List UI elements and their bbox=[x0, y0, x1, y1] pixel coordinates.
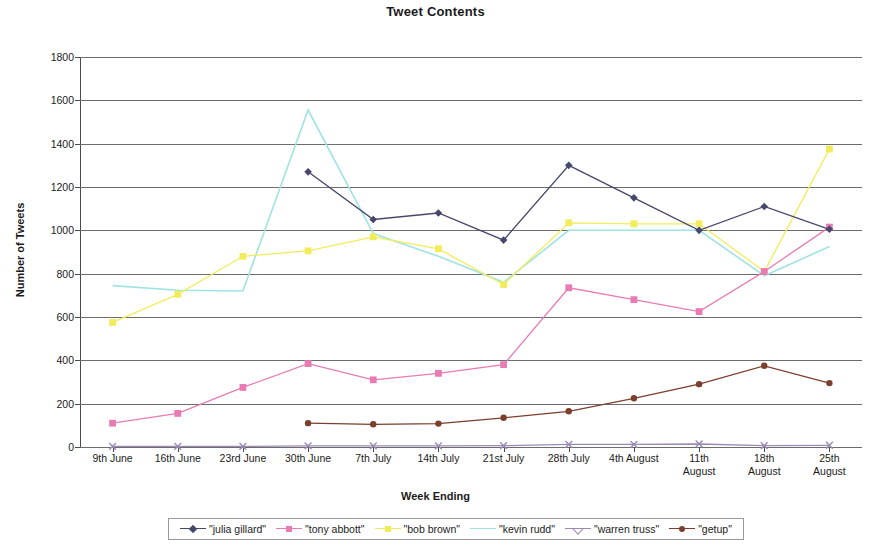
y-tick-label: 1800 bbox=[28, 51, 74, 63]
legend-swatch-icon bbox=[669, 524, 695, 534]
data-point bbox=[240, 253, 247, 260]
series-lines bbox=[80, 57, 862, 447]
x-tick-label: 14th July bbox=[417, 452, 459, 465]
legend-swatch-icon bbox=[470, 524, 496, 534]
x-tick-label: 4th August bbox=[609, 452, 659, 465]
x-tick-label: 11th August bbox=[683, 452, 716, 478]
data-point bbox=[500, 415, 506, 421]
data-point bbox=[760, 203, 768, 211]
series-line bbox=[113, 444, 830, 446]
data-point bbox=[370, 421, 376, 427]
y-tick-label: 600 bbox=[28, 311, 74, 323]
series-line bbox=[113, 110, 830, 291]
y-tick-label: 1000 bbox=[28, 224, 74, 236]
legend-swatch-icon bbox=[565, 524, 591, 534]
data-point bbox=[500, 361, 507, 368]
series-4 bbox=[109, 441, 833, 450]
data-point bbox=[631, 395, 637, 401]
data-point bbox=[630, 194, 638, 202]
data-point bbox=[435, 245, 442, 252]
data-point bbox=[435, 370, 442, 377]
data-point bbox=[500, 281, 507, 288]
chart-canvas: Tweet Contents Number of Tweets 02004006… bbox=[0, 0, 871, 546]
x-axis-title: Week Ending bbox=[0, 490, 871, 502]
data-point bbox=[761, 363, 767, 369]
data-point bbox=[435, 420, 441, 426]
legend-item-4[interactable]: "warren truss" bbox=[565, 523, 659, 535]
y-tick-label: 1200 bbox=[28, 181, 74, 193]
data-point bbox=[370, 233, 377, 240]
x-tick-label: 21st July bbox=[483, 452, 524, 465]
series-2 bbox=[109, 146, 833, 326]
chart-title: Tweet Contents bbox=[0, 4, 871, 19]
data-point bbox=[305, 360, 312, 367]
series-line bbox=[113, 227, 830, 423]
y-tick-mark bbox=[75, 447, 80, 448]
legend-swatch-icon bbox=[276, 524, 302, 534]
data-point bbox=[370, 376, 377, 383]
x-tick-label: 28th July bbox=[548, 452, 590, 465]
legend-label: "getup" bbox=[698, 523, 732, 535]
legend-label: "bob brown" bbox=[404, 523, 461, 535]
series-1 bbox=[109, 224, 833, 427]
series-0 bbox=[304, 162, 833, 244]
data-point bbox=[565, 219, 572, 226]
data-point bbox=[631, 220, 638, 227]
data-point bbox=[826, 146, 833, 153]
data-point bbox=[435, 209, 443, 217]
y-tick-label: 200 bbox=[28, 398, 74, 410]
data-point bbox=[109, 319, 116, 326]
y-tick-label: 1400 bbox=[28, 138, 74, 150]
data-point bbox=[109, 420, 116, 427]
data-point bbox=[174, 410, 181, 417]
plot-area bbox=[80, 57, 862, 447]
legend-item-1[interactable]: "tony abbott" bbox=[276, 523, 364, 535]
y-tick-label: 0 bbox=[28, 441, 74, 453]
data-point bbox=[565, 284, 572, 291]
legend-item-0[interactable]: "julia gillard" bbox=[180, 523, 266, 535]
legend-item-2[interactable]: "bob brown" bbox=[375, 523, 461, 535]
x-tick-label: 7th July bbox=[355, 452, 391, 465]
x-axis-tick-labels: 9th June16th June23rd June30th June7th J… bbox=[80, 452, 862, 488]
legend-label: "warren truss" bbox=[594, 523, 659, 535]
series-5 bbox=[305, 363, 833, 428]
legend-label: "kevin rudd" bbox=[499, 523, 555, 535]
data-point bbox=[240, 384, 247, 391]
data-point bbox=[826, 380, 832, 386]
data-point bbox=[696, 308, 703, 315]
series-line bbox=[308, 165, 829, 240]
x-tick-label: 18th August bbox=[748, 452, 781, 478]
y-axis-tick-labels: 020040060080010001200140016001800 bbox=[22, 57, 74, 448]
legend-swatch-icon bbox=[375, 524, 401, 534]
legend-item-5[interactable]: "getup" bbox=[669, 523, 732, 535]
y-tick-label: 1600 bbox=[28, 94, 74, 106]
y-tick-label: 800 bbox=[28, 268, 74, 280]
data-point bbox=[761, 268, 768, 275]
data-point bbox=[305, 248, 312, 255]
data-point bbox=[696, 220, 703, 227]
x-tick-label: 23rd June bbox=[220, 452, 267, 465]
legend-item-3[interactable]: "kevin rudd" bbox=[470, 523, 555, 535]
legend-swatch-icon bbox=[180, 524, 206, 534]
series-line bbox=[113, 149, 830, 322]
data-point bbox=[631, 296, 638, 303]
x-tick-label: 30th June bbox=[285, 452, 331, 465]
legend: "julia gillard""tony abbott""bob brown""… bbox=[168, 518, 744, 540]
data-point bbox=[174, 291, 181, 298]
data-point bbox=[696, 381, 702, 387]
x-tick-label: 25th August bbox=[813, 452, 846, 478]
series-line bbox=[308, 366, 829, 425]
series-3 bbox=[113, 110, 830, 291]
gridline bbox=[80, 447, 862, 448]
legend-label: "tony abbott" bbox=[305, 523, 364, 535]
x-tick-label: 9th June bbox=[92, 452, 132, 465]
y-tick-label: 400 bbox=[28, 354, 74, 366]
legend-label: "julia gillard" bbox=[209, 523, 266, 535]
data-point bbox=[305, 420, 311, 426]
x-tick-label: 16th June bbox=[155, 452, 201, 465]
data-point bbox=[566, 408, 572, 414]
